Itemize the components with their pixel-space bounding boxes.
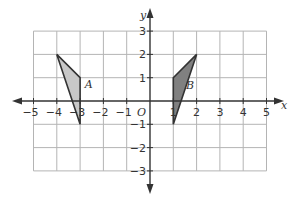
x-tick-label: −1 bbox=[116, 106, 132, 119]
shape-a-label: A bbox=[84, 78, 93, 91]
x-tick-label: 3 bbox=[216, 106, 223, 119]
y-axis-up-arrow-icon bbox=[147, 8, 154, 18]
y-axis-down-arrow-icon bbox=[147, 184, 154, 194]
x-tick-label: 1 bbox=[170, 106, 177, 119]
y-tick-label: −3 bbox=[130, 165, 146, 178]
x-tick-label: −5 bbox=[22, 106, 38, 119]
x-tick-label: 4 bbox=[240, 106, 247, 119]
origin-label: O bbox=[137, 106, 146, 119]
y-tick-label: 1 bbox=[139, 72, 146, 85]
y-tick-label: 2 bbox=[139, 48, 146, 61]
y-tick-label: −1 bbox=[130, 118, 146, 131]
x-axis-label: x bbox=[281, 99, 288, 112]
shape-b-label: B bbox=[185, 79, 194, 92]
x-tick-label: 5 bbox=[263, 106, 270, 119]
x-tick-label: −2 bbox=[92, 106, 108, 119]
y-tick-label: 3 bbox=[139, 25, 146, 38]
x-tick-label: −3 bbox=[69, 106, 85, 119]
x-axis-left-arrow-icon bbox=[12, 98, 22, 105]
coordinate-grid-diagram: −5−4−3−2−112345321−1−2−3xyOAB bbox=[0, 0, 290, 199]
x-tick-label: 2 bbox=[193, 106, 200, 119]
y-axis-label: y bbox=[139, 9, 147, 22]
x-tick-label: −4 bbox=[46, 106, 62, 119]
y-tick-label: −2 bbox=[130, 142, 146, 155]
